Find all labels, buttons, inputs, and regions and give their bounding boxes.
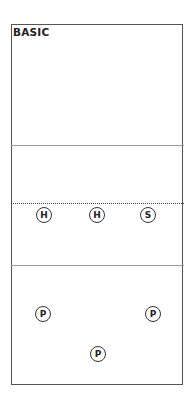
- player-marker-passer-3: P: [90, 346, 106, 362]
- court-line-lower: [11, 265, 184, 266]
- court-line-dotted: [11, 203, 184, 204]
- player-marker-hitter-1: H: [36, 207, 52, 223]
- player-marker-passer-1: P: [35, 306, 51, 322]
- court-outline: [11, 24, 183, 385]
- player-marker-hitter-2: H: [89, 207, 105, 223]
- court-line-upper: [11, 145, 184, 146]
- diagram-title: BASIC: [13, 26, 49, 38]
- player-marker-setter: S: [140, 207, 156, 223]
- player-marker-passer-2: P: [145, 306, 161, 322]
